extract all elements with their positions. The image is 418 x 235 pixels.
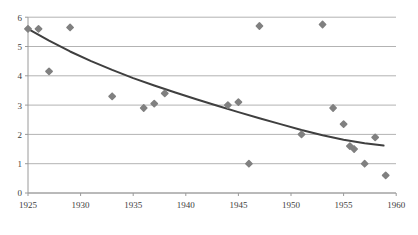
y-tick-label-0: 0 xyxy=(18,188,23,198)
y-tick-label-1: 1 xyxy=(18,159,23,169)
x-tick-label-1925: 1925 xyxy=(19,200,38,210)
x-tick-label-1930: 1930 xyxy=(72,200,91,210)
y-tick-label-6: 6 xyxy=(18,13,23,23)
x-tick-label-1935: 1935 xyxy=(124,200,143,210)
scatter-chart: 0123456 19251930193519401945195019551960 xyxy=(0,0,418,235)
y-tick-label-4: 4 xyxy=(18,71,23,81)
y-tick-label-3: 3 xyxy=(18,101,23,111)
x-tick-label-1960: 1960 xyxy=(387,200,406,210)
chart-background xyxy=(0,0,418,235)
x-tick-label-1950: 1950 xyxy=(282,200,301,210)
y-tick-label-2: 2 xyxy=(18,130,23,140)
x-tick-label-1940: 1940 xyxy=(177,200,196,210)
x-tick-label-1945: 1945 xyxy=(229,200,248,210)
chart-container: 0123456 19251930193519401945195019551960 xyxy=(0,0,418,235)
y-tick-label-5: 5 xyxy=(18,42,23,52)
x-tick-label-1955: 1955 xyxy=(335,200,354,210)
